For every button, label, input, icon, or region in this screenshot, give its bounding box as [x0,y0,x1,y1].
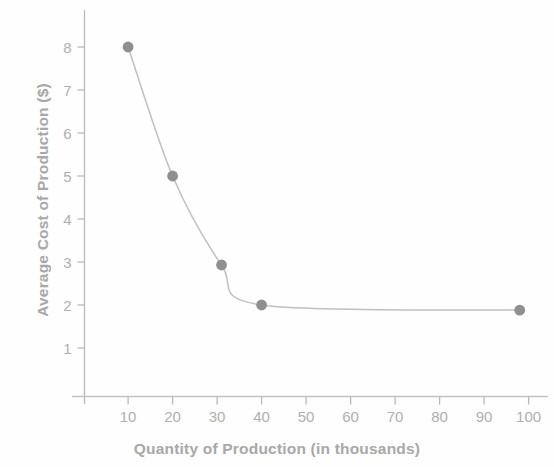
x-tick-label: 10 [120,408,137,425]
x-tick-label: 20 [164,408,181,425]
x-tick-label: 30 [209,408,226,425]
y-tick-label: 5 [63,168,71,185]
y-tick-label: 7 [63,82,71,99]
x-tick-label: 80 [431,408,448,425]
y-tick-label: 8 [63,39,71,56]
y-axis-title: Average Cost of Production ($) [30,15,56,385]
data-markers [123,42,525,316]
x-tick-label: 50 [298,408,315,425]
y-tick-label: 4 [63,211,71,228]
plot-area [0,0,554,467]
data-line [128,47,520,310]
y-tick-label: 1 [63,340,71,357]
x-tick-label: 70 [387,408,404,425]
x-axis-ticks [128,397,528,405]
data-point-marker [216,260,227,271]
x-tick-label: 100 [516,408,541,425]
chart-figure: 12345678 102030405060708090100 Average C… [0,0,554,467]
data-point-marker [123,42,134,53]
x-tick-label: 60 [342,408,359,425]
y-axis-ticks [78,47,85,348]
x-axis-title: Quantity of Production (in thousands) [0,440,554,458]
data-point-marker [167,171,178,182]
x-tick-label: 40 [253,408,270,425]
data-point-marker [256,300,267,311]
y-tick-label: 6 [63,125,71,142]
x-tick-label: 90 [476,408,493,425]
y-tick-label: 2 [63,297,71,314]
data-point-marker [514,305,525,316]
y-tick-label: 3 [63,254,71,271]
axes [72,10,548,404]
